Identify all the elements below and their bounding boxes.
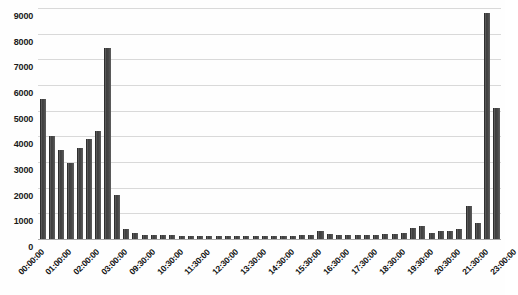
y-axis-tick-label: 1000 bbox=[14, 216, 33, 226]
bar bbox=[290, 236, 296, 239]
bar bbox=[466, 206, 472, 239]
bar bbox=[253, 236, 259, 239]
bar bbox=[299, 235, 305, 239]
x-axis-tick-label: 01:00:00 bbox=[44, 247, 74, 277]
bar bbox=[104, 48, 110, 239]
bar bbox=[327, 234, 333, 239]
x-axis-tick-label: 14:30:00 bbox=[266, 247, 296, 277]
bar bbox=[355, 235, 361, 239]
bar bbox=[345, 235, 351, 239]
bar bbox=[169, 235, 175, 239]
bar bbox=[123, 229, 129, 239]
y-axis-tick-label: 2000 bbox=[14, 191, 33, 201]
y-axis: 0100020003000400050006000700080009000 bbox=[0, 8, 38, 239]
y-axis-tick-label: 4000 bbox=[14, 139, 33, 149]
bar bbox=[456, 229, 462, 239]
bar bbox=[410, 228, 416, 239]
x-axis-tick-label: 12:30:00 bbox=[210, 247, 240, 277]
y-axis-tick-label: 8000 bbox=[14, 37, 33, 47]
bar bbox=[271, 236, 277, 239]
plot-area bbox=[38, 8, 501, 239]
bar bbox=[243, 236, 249, 239]
bars-layer bbox=[38, 8, 501, 239]
x-axis-tick-label: 15:30:00 bbox=[294, 247, 324, 277]
bar bbox=[262, 236, 268, 239]
bar bbox=[429, 233, 435, 239]
x-axis: 00:00:0001:00:0002:00:0003:00:0009:30:00… bbox=[38, 240, 501, 295]
y-axis-tick-label: 5000 bbox=[14, 114, 33, 124]
y-axis-tick-label: 9000 bbox=[14, 11, 33, 21]
x-axis-tick-label: 16:30:00 bbox=[321, 247, 351, 277]
bar bbox=[197, 236, 203, 239]
x-axis-tick-label: 09:30:00 bbox=[127, 247, 157, 277]
x-axis-tick-label: 23:00:00 bbox=[488, 247, 518, 277]
bar bbox=[67, 163, 73, 239]
bar bbox=[484, 13, 490, 239]
bar bbox=[447, 231, 453, 239]
y-axis-tick-label: 6000 bbox=[14, 88, 33, 98]
x-axis-tick-label: 21:30:00 bbox=[460, 247, 490, 277]
bar bbox=[401, 233, 407, 239]
bar bbox=[160, 235, 166, 239]
bar bbox=[382, 234, 388, 239]
y-axis-tick-label: 7000 bbox=[14, 62, 33, 72]
bar bbox=[373, 235, 379, 239]
bar bbox=[493, 108, 499, 239]
bar bbox=[392, 234, 398, 239]
bar bbox=[95, 131, 101, 239]
x-axis-tick-label: 11:30:00 bbox=[182, 247, 212, 277]
x-axis-tick-label: 10:30:00 bbox=[155, 247, 185, 277]
y-axis-tick-label: 0 bbox=[28, 242, 33, 252]
y-axis-tick-label: 3000 bbox=[14, 165, 33, 175]
bar bbox=[86, 139, 92, 239]
bar bbox=[58, 150, 64, 239]
bar bbox=[419, 226, 425, 239]
x-axis-tick-label: 03:00:00 bbox=[99, 247, 129, 277]
bar bbox=[206, 236, 212, 239]
bar bbox=[225, 236, 231, 239]
bar bbox=[40, 99, 46, 239]
bar bbox=[308, 235, 314, 239]
bar bbox=[216, 236, 222, 239]
x-axis-tick-label: 02:00:00 bbox=[71, 247, 101, 277]
bar bbox=[438, 231, 444, 239]
x-axis-tick-label: 17:30:00 bbox=[349, 247, 379, 277]
bar bbox=[188, 236, 194, 239]
bar bbox=[132, 233, 138, 239]
bar bbox=[151, 235, 157, 239]
bar bbox=[114, 195, 120, 239]
bar bbox=[475, 223, 481, 239]
bar bbox=[49, 136, 55, 239]
bar bbox=[234, 236, 240, 239]
x-axis-tick-label: 20:30:00 bbox=[432, 247, 462, 277]
bar bbox=[336, 235, 342, 239]
x-axis-tick-label: 19:30:00 bbox=[405, 247, 435, 277]
bar bbox=[142, 235, 148, 239]
x-axis-tick-label: 13:30:00 bbox=[238, 247, 268, 277]
bar bbox=[364, 235, 370, 239]
bar bbox=[179, 236, 185, 239]
x-axis-tick-label: 18:30:00 bbox=[377, 247, 407, 277]
bar bbox=[317, 231, 323, 239]
bar bbox=[77, 148, 83, 239]
bar bbox=[280, 236, 286, 239]
